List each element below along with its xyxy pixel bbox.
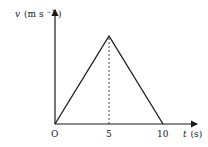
- x-tick-10: 10: [157, 129, 169, 139]
- x-axis-label: t (s): [183, 129, 202, 139]
- velocity-time-graph: v (m s −1 ) O 5 10 t (s): [0, 0, 208, 147]
- x-tick-5: 5: [106, 129, 112, 139]
- origin-label: O: [51, 129, 58, 139]
